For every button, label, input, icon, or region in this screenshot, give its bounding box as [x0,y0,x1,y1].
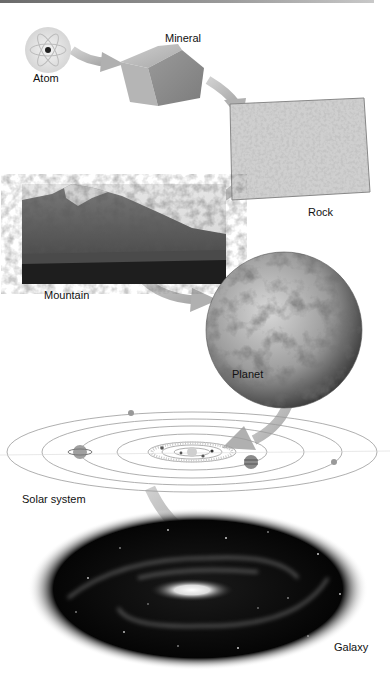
label-rock: Rock [308,206,333,218]
label-mountain: Mountain [44,289,89,301]
label-solar-system: Solar system [22,493,86,505]
mountain-image [22,184,226,284]
mineral-image [118,40,208,110]
planet-image [204,250,364,410]
label-mineral: Mineral [165,32,201,44]
label-planet: Planet [232,368,263,380]
rock-image [224,96,372,202]
solar-system-image [0,404,390,494]
label-galaxy: Galaxy [334,641,368,653]
galaxy-image [28,508,368,670]
label-atom: Atom [33,72,59,84]
atom-icon [24,26,72,74]
arrow-atom-to-mineral [72,50,124,72]
